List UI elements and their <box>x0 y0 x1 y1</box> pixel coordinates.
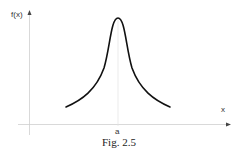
y-axis-arrow-icon <box>28 10 32 15</box>
figure-caption: Fig. 2.5 <box>102 137 136 148</box>
peak-tick-label: a <box>115 128 119 136</box>
x-axis-label: x <box>221 106 225 114</box>
figure-canvas: f(x) x a Fig. 2.5 <box>0 0 236 153</box>
y-axis-label: f(x) <box>11 11 23 19</box>
x-axis-arrow-icon <box>226 123 231 127</box>
